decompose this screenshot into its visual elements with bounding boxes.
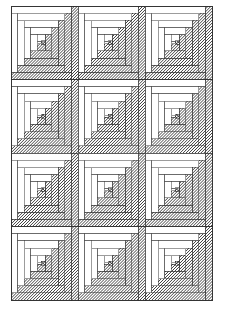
dark-log-bottom <box>152 139 199 146</box>
dark-log-bottom <box>78 293 138 300</box>
light-log-top <box>24 20 58 27</box>
dark-log-bottom <box>91 132 125 139</box>
light-log-top <box>11 80 71 87</box>
dark-log-right <box>186 28 193 59</box>
dark-log-right <box>192 20 199 65</box>
light-log-top <box>152 160 199 167</box>
light-log-top <box>145 6 205 13</box>
center-square <box>41 114 45 118</box>
dark-log-right <box>45 182 52 198</box>
dark-log-right <box>71 153 78 227</box>
dark-log-right <box>205 227 212 301</box>
dark-log-bottom <box>91 58 125 65</box>
light-log-left <box>11 87 18 146</box>
light-log-left <box>24 28 31 59</box>
dark-log-right <box>125 167 132 212</box>
dark-log-right <box>119 248 126 279</box>
log-cabin-block <box>11 153 78 227</box>
light-log-left <box>98 182 105 198</box>
dark-log-bottom <box>152 65 199 72</box>
dark-log-right <box>138 80 145 154</box>
light-log-left <box>18 20 25 65</box>
light-log-top <box>145 153 205 160</box>
dark-log-right <box>132 87 139 146</box>
center-square <box>108 41 112 45</box>
light-log-top <box>18 234 65 241</box>
dark-log-right <box>132 160 139 219</box>
light-log-top <box>18 13 65 20</box>
log-cabin-block <box>78 227 145 301</box>
light-log-top <box>31 101 52 108</box>
dark-log-right <box>119 28 126 59</box>
dark-log-right <box>138 227 145 301</box>
light-log-top <box>85 160 132 167</box>
dark-log-bottom <box>145 293 205 300</box>
quilt-canvas <box>0 0 225 312</box>
light-log-top <box>91 94 125 101</box>
light-log-top <box>158 94 192 101</box>
light-log-top <box>31 248 52 255</box>
light-log-top <box>152 13 199 20</box>
light-log-left <box>11 234 18 293</box>
dark-log-bottom <box>11 219 71 226</box>
dark-log-right <box>179 35 186 51</box>
light-log-top <box>11 227 71 234</box>
dark-log-bottom <box>18 212 65 219</box>
dark-log-bottom <box>152 212 199 219</box>
light-log-top <box>91 241 125 248</box>
dark-log-bottom <box>98 51 119 58</box>
dark-log-right <box>192 241 199 286</box>
center-square <box>175 41 179 45</box>
light-log-top <box>98 28 119 35</box>
light-log-left <box>158 28 165 59</box>
log-cabin-block <box>11 227 78 301</box>
light-log-top <box>165 28 186 35</box>
light-log-left <box>98 108 105 124</box>
light-log-left <box>158 101 165 132</box>
light-log-top <box>145 227 205 234</box>
center-square <box>175 188 179 192</box>
dark-log-right <box>58 167 65 212</box>
light-log-top <box>11 6 71 13</box>
light-log-left <box>152 20 159 65</box>
light-log-left <box>24 101 31 132</box>
light-log-left <box>18 241 25 286</box>
light-log-left <box>31 108 38 124</box>
dark-log-right <box>112 35 119 51</box>
dark-log-bottom <box>158 132 192 139</box>
dark-log-bottom <box>78 72 138 79</box>
dark-log-right <box>112 108 119 124</box>
light-log-top <box>158 20 192 27</box>
dark-log-bottom <box>18 139 65 146</box>
light-log-top <box>24 167 58 174</box>
dark-log-bottom <box>11 293 71 300</box>
dark-log-right <box>205 80 212 154</box>
light-log-left <box>145 87 152 146</box>
light-log-left <box>165 255 172 271</box>
light-log-left <box>18 94 25 139</box>
dark-log-right <box>192 94 199 139</box>
dark-log-right <box>58 241 65 286</box>
light-log-left <box>91 175 98 206</box>
center-square <box>108 114 112 118</box>
dark-log-right <box>71 6 78 80</box>
dark-log-right <box>52 175 59 206</box>
dark-log-bottom <box>158 58 192 65</box>
light-log-top <box>85 13 132 20</box>
light-log-top <box>18 160 65 167</box>
light-log-left <box>31 182 38 198</box>
light-log-top <box>91 167 125 174</box>
dark-log-bottom <box>31 51 52 58</box>
dark-log-right <box>132 13 139 72</box>
dark-log-bottom <box>91 279 125 286</box>
light-log-top <box>98 175 119 182</box>
dark-log-bottom <box>78 146 138 153</box>
light-log-top <box>98 248 119 255</box>
dark-log-right <box>179 108 186 124</box>
light-log-left <box>18 167 25 212</box>
log-cabin-block <box>78 153 145 227</box>
center-square <box>108 261 112 265</box>
dark-log-bottom <box>85 65 132 72</box>
dark-log-bottom <box>98 124 119 131</box>
dark-log-right <box>52 248 59 279</box>
